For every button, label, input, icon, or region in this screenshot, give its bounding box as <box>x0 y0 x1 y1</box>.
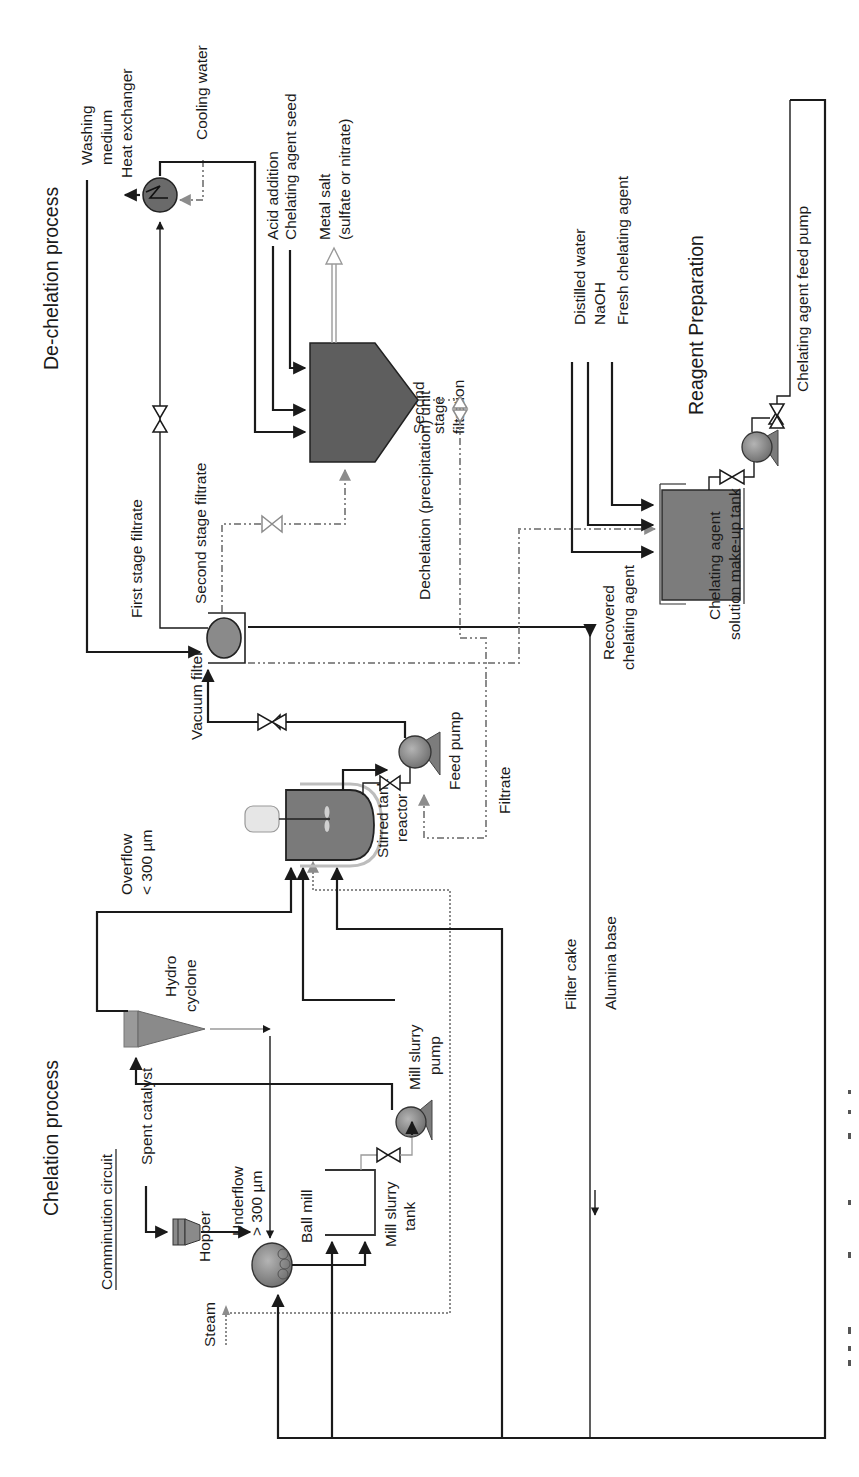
spent-catalyst-line <box>146 1186 167 1232</box>
slurry-to-reactor-line <box>303 868 395 1000</box>
recovered-chelating-agent-line <box>248 529 655 663</box>
svg-text:< 300 µm: < 300 µm <box>138 830 155 895</box>
cooling-water-line <box>180 160 203 200</box>
svg-text:pump: pump <box>426 1036 443 1075</box>
svg-text:chelating agent: chelating agent <box>620 564 637 670</box>
svg-text:Washing: Washing <box>78 105 95 165</box>
reagent-preparation-title: Reagent Preparation <box>685 235 707 415</box>
svg-text:Underflow: Underflow <box>229 1165 246 1236</box>
second-stage-valve[interactable] <box>262 516 282 532</box>
first-stage-filtrate-label: First stage filtrate <box>128 499 145 618</box>
dechelation-process-title: De-chelation process <box>40 187 62 370</box>
figure-caption-fragment <box>848 1090 851 1366</box>
chelating-agent-feed-pump-label: Chelating agent feed pump <box>794 206 811 392</box>
mill-slurry-tank <box>325 1170 375 1235</box>
feed-pump-to-filter-line <box>208 670 405 738</box>
washing-medium-label: Washing medium <box>78 105 115 165</box>
cooling-water-label: Cooling water <box>193 45 210 140</box>
recovered-chelating-agent-label: Recovered chelating agent <box>600 564 637 670</box>
filter-cake-label: Filter cake <box>562 939 579 1011</box>
tank-to-feed-pump-line <box>709 477 720 490</box>
fresh-chelating-agent-label: Fresh chelating agent <box>614 175 631 325</box>
overflow-label: Overflow < 300 µm <box>118 830 155 895</box>
makeup-tank-valve[interactable] <box>720 470 744 484</box>
mill-slurry-pump-label: Mill slurry pump <box>406 1024 443 1090</box>
distilled-water-label: Distilled water <box>571 229 588 325</box>
feed-pump-label: Feed pump <box>446 712 463 790</box>
alumina-base-label: Alumina base <box>602 916 619 1010</box>
second-stage-filtrate-label: Second stage filtrate <box>192 463 209 604</box>
svg-text:Metal salt: Metal salt <box>316 173 333 240</box>
ball-mill-label: Ball mill <box>298 1190 315 1243</box>
svg-text:Mill slurry: Mill slurry <box>406 1024 423 1090</box>
vacuum-filter-label: Vacuum filter <box>188 651 205 740</box>
first-stage-valve[interactable] <box>153 406 167 432</box>
chelating-agent-feed-pump <box>742 430 778 466</box>
svg-text:> 300 µm: > 300 µm <box>248 1171 265 1236</box>
heat-exchanger <box>143 178 177 212</box>
dechelation-unit <box>310 343 418 462</box>
tank-to-valve-line <box>361 1155 377 1170</box>
naoh-line <box>588 362 653 525</box>
chelating-agent-seed-label: Chelating agent seed <box>282 93 299 240</box>
mill-slurry-valve[interactable] <box>377 1148 400 1162</box>
stirred-tank-reactor <box>245 784 382 866</box>
pump-to-cyclone-line <box>136 1058 392 1110</box>
second-stage-filtrate-line <box>222 470 345 612</box>
chelating-seed-line <box>290 250 305 368</box>
process-flow-diagram: Chelation process De-chelation process R… <box>0 0 859 1477</box>
comminution-circuit-title: Comminution circuit <box>98 1149 116 1290</box>
hydro-cyclone <box>124 1011 205 1047</box>
hydro-cyclone-label: Hydro cyclone <box>162 956 199 1012</box>
chelating-agent-to-reactor-line <box>337 868 502 1438</box>
acid-addition-label: Acid addition <box>264 151 281 240</box>
filtrate-label: Filtrate <box>496 767 513 814</box>
svg-text:medium: medium <box>98 110 115 165</box>
svg-text:Chelating agent: Chelating agent <box>706 511 723 620</box>
metal-salt-outlet-arrow <box>326 248 342 343</box>
mill-to-tank-line <box>292 1242 365 1265</box>
mill-slurry-tank-label: Mill slurry tank <box>382 1181 418 1247</box>
svg-text:tank: tank <box>401 1201 418 1231</box>
svg-text:Comminution circuit: Comminution circuit <box>98 1153 115 1290</box>
steam-label: Steam <box>201 1302 218 1347</box>
svg-text:Hydro: Hydro <box>162 956 179 997</box>
svg-text:Mill slurry: Mill slurry <box>382 1181 399 1247</box>
feed-pump-outlet-valve[interactable] <box>769 404 784 428</box>
dechelation-unit-label: Dechelation (precipitation) unit <box>416 390 433 600</box>
metal-salt-label: Metal salt (sulfate or nitrate) <box>316 119 353 240</box>
svg-text:solution make-up tank: solution make-up tank <box>726 488 743 640</box>
heat-exchanger-label: Heat exchanger <box>118 69 135 178</box>
feed-pump <box>399 732 440 775</box>
svg-text:reactor: reactor <box>393 794 410 842</box>
mill-slurry-pump <box>396 1100 432 1140</box>
hopper-label: Hopper <box>196 1211 213 1262</box>
filter-cake-line <box>248 627 590 636</box>
naoh-label: NaOH <box>591 282 608 325</box>
svg-text:Overflow: Overflow <box>118 833 135 895</box>
fresh-chelating-line <box>612 362 653 505</box>
svg-text:cyclone: cyclone <box>182 959 199 1012</box>
vacuum-filter <box>207 613 245 663</box>
spent-catalyst-label: Spent catalyst <box>138 1067 155 1165</box>
filter-feed-valve[interactable] <box>258 714 286 730</box>
underflow-label: Underflow > 300 µm <box>229 1165 265 1236</box>
chelation-process-title: Chelation process <box>40 1060 62 1216</box>
svg-text:Recovered: Recovered <box>600 585 617 660</box>
svg-text:Stirred tank: Stirred tank <box>374 778 391 858</box>
ball-mill <box>252 1243 292 1287</box>
svg-text:(sulfate or nitrate): (sulfate or nitrate) <box>336 119 353 240</box>
